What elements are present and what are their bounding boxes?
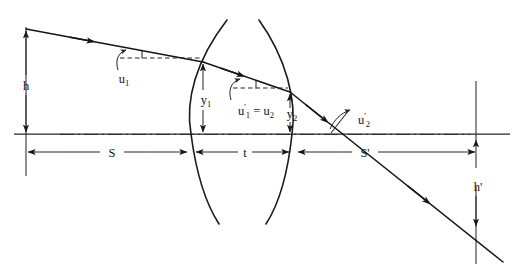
label-u2-subscript: 2 <box>270 110 274 120</box>
label-ray-height-y2: y2 <box>287 107 298 123</box>
lens-surface-1 <box>189 20 227 224</box>
label-image-height: h' <box>474 180 483 194</box>
label-ray-height-y1: y1 <box>201 93 212 109</box>
angle-arc-u1 <box>117 50 126 70</box>
optics-ray-diagram: h h' S t S' y1 y2 u1 u'1 = u2 <box>0 0 520 274</box>
lens-group <box>189 20 293 224</box>
label-image-distance: S' <box>360 146 369 160</box>
label-object-distance: S <box>109 146 116 160</box>
label-u2prime-subscript: 2 <box>366 119 370 129</box>
diagram-canvas: h h' S t S' y1 y2 u1 u'1 = u2 <box>0 0 520 274</box>
label-angle-u1: u1 <box>119 72 130 88</box>
lens-surface-2 <box>259 20 293 224</box>
label-angle-equals: = <box>250 104 263 118</box>
label-u1-subscript: 1 <box>125 78 129 88</box>
ray-segment-internal <box>203 62 290 92</box>
ray-path-group <box>26 29 503 262</box>
label-y2-subscript: 2 <box>293 113 297 123</box>
ray-direction-marker-internal <box>221 68 242 75</box>
ray-direction-marker-exit-2 <box>408 186 428 202</box>
label-y1-subscript: 1 <box>207 99 211 109</box>
angle-arc-u1prime-u2 <box>230 79 240 100</box>
label-group: h h' S t S' y1 y2 u1 u'1 = u2 <box>23 72 482 194</box>
label-lens-thickness: t <box>243 146 247 160</box>
label-angle-u2prime: u'2 <box>358 111 370 129</box>
ray-segment-incident <box>26 29 203 62</box>
ray-direction-marker-incident <box>70 37 92 41</box>
angle-arc-group <box>117 50 350 133</box>
label-object-height: h <box>23 79 30 93</box>
label-angle-u1prime-u2: u'1 = u2 <box>238 102 274 120</box>
ray-direction-marker-exit-1 <box>306 105 326 121</box>
